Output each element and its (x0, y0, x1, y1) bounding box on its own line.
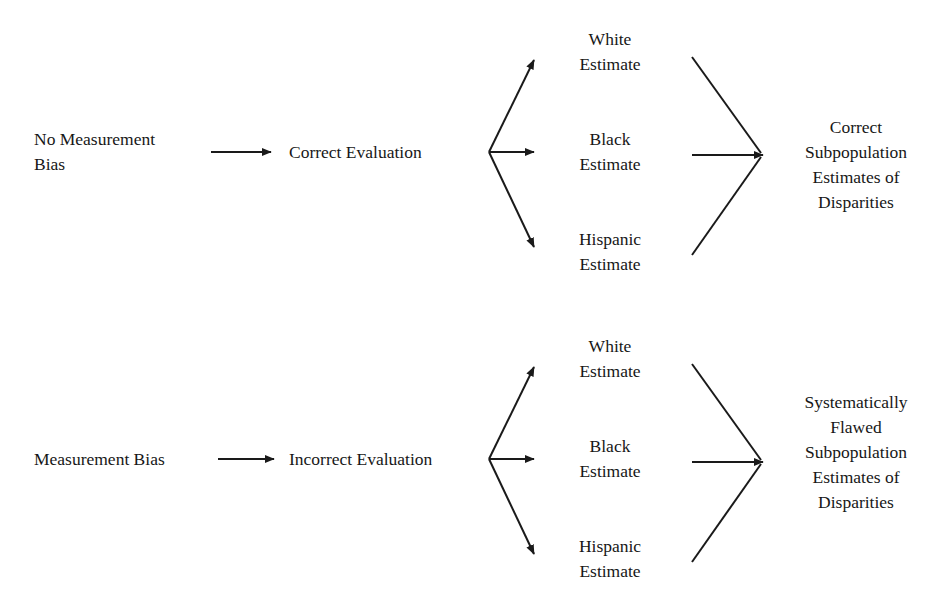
arrow-evaluation-to-hispanic-1 (489, 152, 534, 247)
node-outcome-systematically-flawed-estimates: Systematically Flawed Subpopulation Esti… (780, 390, 932, 515)
arrow-evaluation-to-white-1 (489, 60, 534, 152)
node-source-measurement-bias: Measurement Bias (34, 447, 254, 472)
flowchart-canvas: No Measurement Bias Correct Evaluation W… (0, 0, 947, 614)
flowchart-connectors (0, 0, 947, 614)
line-white-to-outcome-1 (692, 57, 761, 153)
node-estimate-black-row1: Black Estimate (540, 127, 680, 177)
line-hispanic-to-outcome-2 (692, 464, 761, 562)
node-estimate-white-row1: White Estimate (540, 27, 680, 77)
node-outcome-correct-subpopulation-estimates: Correct Subpopulation Estimates of Dispa… (780, 115, 932, 215)
line-white-to-outcome-2 (692, 364, 761, 460)
node-estimate-white-row2: White Estimate (540, 334, 680, 384)
node-evaluation-correct: Correct Evaluation (289, 140, 479, 165)
arrow-evaluation-to-white-2 (489, 367, 534, 459)
line-hispanic-to-outcome-1 (692, 157, 761, 255)
node-estimate-hispanic-row1: Hispanic Estimate (540, 227, 680, 277)
node-estimate-hispanic-row2: Hispanic Estimate (540, 534, 680, 584)
node-source-no-measurement-bias: No Measurement Bias (34, 127, 234, 177)
arrow-evaluation-to-hispanic-2 (489, 459, 534, 554)
node-estimate-black-row2: Black Estimate (540, 434, 680, 484)
node-evaluation-incorrect: Incorrect Evaluation (289, 447, 489, 472)
